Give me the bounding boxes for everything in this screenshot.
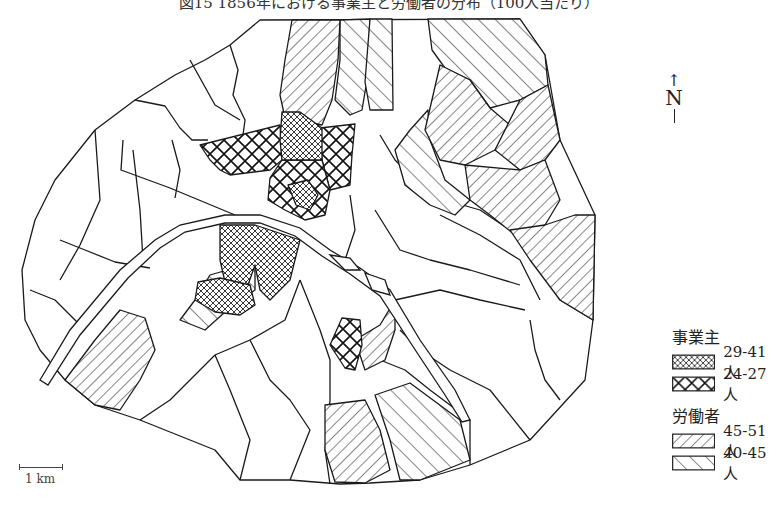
backward-diagonal-swatch-icon: [672, 455, 715, 471]
paris-district-map: [0, 0, 778, 505]
legend-label: 40-45人: [723, 444, 778, 483]
north-arrow: ↑ N: [664, 74, 684, 123]
legend: 事業主 29-41人 24-27人 労働者 45-51人 40-45人: [672, 328, 778, 474]
coarse-crosshatch-swatch-icon: [672, 376, 715, 392]
forward-diagonal-swatch-icon: [672, 433, 715, 449]
legend-item-workers-40-45: 40-45人: [672, 452, 778, 474]
north-label: N: [664, 88, 684, 108]
fine-crosshatch-swatch-icon: [672, 354, 715, 370]
scale-bar: 1 km: [19, 464, 63, 486]
scale-bar-line: [19, 464, 63, 470]
legend-label: 24-27人: [723, 365, 778, 404]
legend-item-employers-24-27: 24-27人: [672, 373, 778, 395]
north-arrow-tail: [674, 109, 675, 123]
scale-bar-label: 1 km: [25, 472, 63, 486]
